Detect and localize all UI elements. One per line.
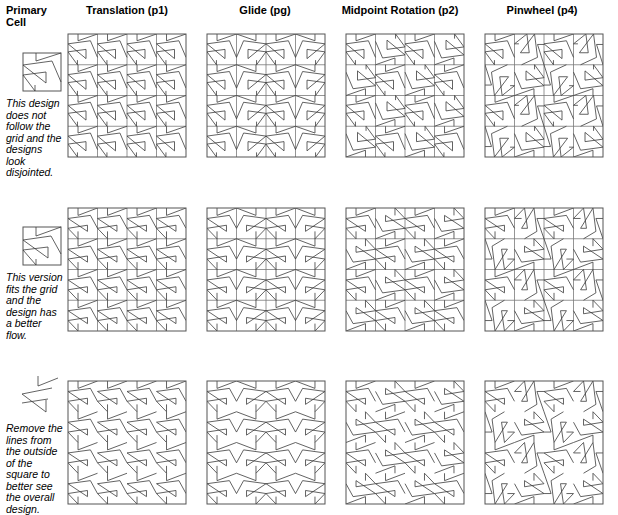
pattern-pg-row1 (206, 33, 326, 158)
primary-cell-row2-svg (22, 226, 62, 266)
pattern-p2-row2-svg (345, 207, 465, 332)
column-header-midpoint-rotation: Midpoint Rotation (p2) (332, 4, 468, 16)
primary-cell-row2 (22, 226, 62, 266)
pattern-p1-row3-svg (67, 380, 187, 505)
pattern-p4-row1-svg (484, 33, 604, 158)
column-header-pinwheel: Pinwheel (p4) (478, 4, 606, 16)
pattern-p1-row2-svg (67, 207, 187, 332)
primary-cell-row3 (18, 374, 66, 418)
column-header-primary-cell-line2: Cell (6, 16, 26, 28)
column-header-primary-cell-line1: Primary (6, 4, 47, 16)
column-header-glide: Glide (pg) (205, 4, 325, 16)
note-row2: This version fits the grid and the desig… (6, 272, 64, 341)
pattern-p4-row3 (484, 380, 604, 505)
pattern-pg-row3-svg (206, 380, 326, 505)
pattern-pg-row3 (206, 380, 326, 505)
pattern-p1-row3 (67, 380, 187, 505)
pattern-p2-row1 (345, 33, 465, 158)
note-row3: Remove the lines from the outside of the… (6, 423, 64, 515)
pattern-pg-row2-svg (206, 207, 326, 332)
primary-cell-row2-motif (23, 227, 61, 265)
pattern-p4-row2 (484, 207, 604, 332)
primary-cell-row3-svg (18, 374, 66, 418)
pattern-p1-row1 (67, 33, 187, 158)
pattern-p1-row1-svg (67, 33, 187, 158)
pattern-p1-row2 (67, 207, 187, 332)
pattern-grid-lines (485, 208, 603, 331)
column-header-primary-cell: Primary Cell (6, 4, 64, 28)
pattern-p4-row1 (484, 33, 604, 158)
pattern-p2-row1-svg (345, 33, 465, 158)
pattern-p2-row3 (345, 380, 465, 505)
pattern-motif-lines (68, 381, 186, 504)
primary-cell-row1-svg (22, 52, 62, 92)
pattern-motif-lines (346, 381, 464, 504)
pattern-p2-row3-svg (345, 380, 465, 505)
pattern-grid-lines (207, 208, 325, 331)
pattern-pg-row2 (206, 207, 326, 332)
pattern-motif-lines (485, 381, 603, 504)
primary-cell-row1-motif (23, 53, 61, 91)
note-row1: This design does not follow the grid and… (6, 98, 64, 179)
pattern-outer-frame (207, 381, 325, 504)
pattern-pg-row1-svg (206, 33, 326, 158)
primary-cell-row3-motif (22, 376, 58, 412)
pattern-p4-row2-svg (484, 207, 604, 332)
pattern-outer-frame (485, 381, 603, 504)
pattern-motif-lines (207, 381, 325, 504)
pattern-p4-row3-svg (484, 380, 604, 505)
pattern-p2-row2 (345, 207, 465, 332)
column-header-translation: Translation (p1) (67, 4, 187, 16)
primary-cell-row1 (22, 52, 62, 92)
